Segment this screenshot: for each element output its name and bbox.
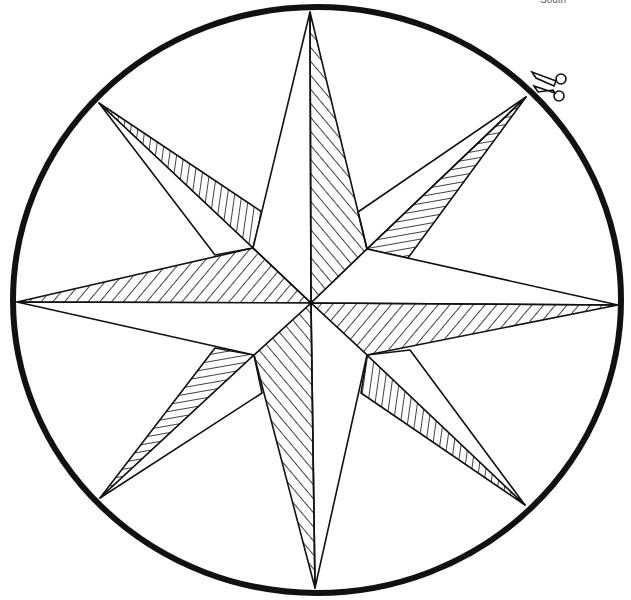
main-point-east [311,249,618,355]
secondary-point-nw [99,103,262,255]
secondary-point-ne [358,97,526,258]
secondary-point-se [361,350,525,505]
main-point-north [253,12,367,303]
main-point-west [17,248,311,355]
main-point-south [254,303,367,588]
scissors-icon [528,70,570,106]
secondary-point-sw [100,348,262,498]
